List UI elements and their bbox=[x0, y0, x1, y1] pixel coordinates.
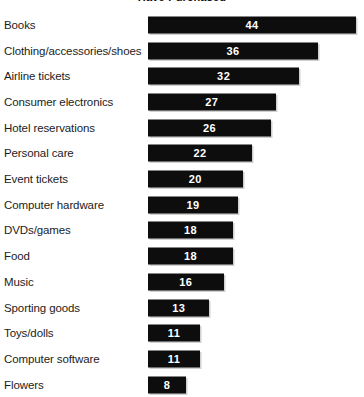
bar-row: Sporting goods13 bbox=[0, 295, 364, 321]
bar: 19 bbox=[148, 196, 238, 213]
bar-row: Consumer electronics27 bbox=[0, 89, 364, 115]
bar-row: Airline tickets32 bbox=[0, 63, 364, 89]
bar: 32 bbox=[148, 68, 299, 85]
bar-value-label: 19 bbox=[148, 196, 238, 213]
bar-row: Food18 bbox=[0, 243, 364, 269]
plot-area: Books44Clothing/accessories/shoes36Airli… bbox=[0, 4, 364, 388]
category-label: Flowers bbox=[4, 378, 44, 391]
bar-value-label: 26 bbox=[148, 119, 271, 136]
bar: 36 bbox=[148, 42, 318, 59]
category-label: Hotel reservations bbox=[4, 121, 95, 134]
bar: 18 bbox=[148, 248, 233, 265]
category-label: Computer software bbox=[4, 352, 99, 365]
bar-value-label: 27 bbox=[148, 93, 276, 110]
bar: 16 bbox=[148, 273, 224, 290]
bar: 22 bbox=[148, 145, 252, 162]
bar: 8 bbox=[148, 376, 186, 393]
bar-row: Computer software11 bbox=[0, 346, 364, 372]
bar-wrapper: 18 bbox=[148, 222, 233, 239]
category-label: Books bbox=[4, 18, 35, 31]
bar-value-label: 11 bbox=[148, 325, 200, 342]
bar: 27 bbox=[148, 93, 276, 110]
category-label: Clothing/accessories/shoes bbox=[4, 44, 141, 57]
bar-row: Books44 bbox=[0, 12, 364, 38]
bar-wrapper: 44 bbox=[148, 16, 356, 33]
category-label: Food bbox=[4, 250, 30, 263]
bar-value-label: 13 bbox=[148, 299, 209, 316]
bar-wrapper: 11 bbox=[148, 350, 200, 367]
category-label: Event tickets bbox=[4, 173, 68, 186]
bar-value-label: 22 bbox=[148, 145, 252, 162]
bar: 11 bbox=[148, 325, 200, 342]
bar-value-label: 18 bbox=[148, 222, 233, 239]
bar-wrapper: 27 bbox=[148, 93, 276, 110]
category-label: Music bbox=[4, 275, 34, 288]
bar-wrapper: 36 bbox=[148, 42, 318, 59]
bar-row: Computer hardware19 bbox=[0, 192, 364, 218]
bar-wrapper: 20 bbox=[148, 171, 243, 188]
bar-value-label: 16 bbox=[148, 273, 224, 290]
bar-wrapper: 26 bbox=[148, 119, 271, 136]
bar-value-label: 18 bbox=[148, 248, 233, 265]
bar-value-label: 44 bbox=[148, 16, 356, 33]
bar-wrapper: 8 bbox=[148, 376, 186, 393]
bar-wrapper: 32 bbox=[148, 68, 299, 85]
bar-row: DVDs/games18 bbox=[0, 218, 364, 244]
chart-title: Have Purchased bbox=[0, 0, 364, 3]
bar-value-label: 32 bbox=[148, 68, 299, 85]
bar-wrapper: 16 bbox=[148, 273, 224, 290]
bar: 18 bbox=[148, 222, 233, 239]
bar: 20 bbox=[148, 171, 243, 188]
bar: 13 bbox=[148, 299, 209, 316]
bar-row: Music16 bbox=[0, 269, 364, 295]
bar-row: Clothing/accessories/shoes36 bbox=[0, 38, 364, 64]
bar-value-label: 36 bbox=[148, 42, 318, 59]
bar-row: Toys/dolls11 bbox=[0, 320, 364, 346]
bar-row: Hotel reservations26 bbox=[0, 115, 364, 141]
category-label: Personal care bbox=[4, 147, 74, 160]
bar-wrapper: 19 bbox=[148, 196, 238, 213]
bar: 44 bbox=[148, 16, 356, 33]
bar-row: Flowers8 bbox=[0, 372, 364, 397]
category-label: Computer hardware bbox=[4, 198, 104, 211]
category-label: DVDs/games bbox=[4, 224, 71, 237]
bar: 26 bbox=[148, 119, 271, 136]
bar-value-label: 20 bbox=[148, 171, 243, 188]
category-label: Consumer electronics bbox=[4, 95, 113, 108]
bar: 11 bbox=[148, 350, 200, 367]
category-label: Toys/dolls bbox=[4, 327, 54, 340]
bar-value-label: 8 bbox=[148, 376, 186, 393]
bar-wrapper: 22 bbox=[148, 145, 252, 162]
bar-value-label: 11 bbox=[148, 350, 200, 367]
category-label: Sporting goods bbox=[4, 301, 80, 314]
bar-wrapper: 18 bbox=[148, 248, 233, 265]
category-label: Airline tickets bbox=[4, 70, 70, 83]
bar-row: Event tickets20 bbox=[0, 166, 364, 192]
bar-row: Personal care22 bbox=[0, 141, 364, 167]
bar-wrapper: 13 bbox=[148, 299, 209, 316]
bar-wrapper: 11 bbox=[148, 325, 200, 342]
